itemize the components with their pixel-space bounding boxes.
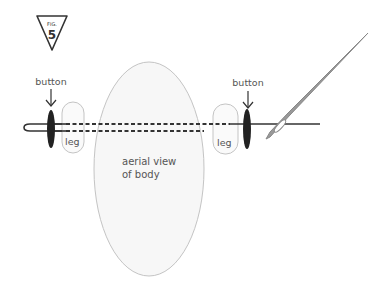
button-right [243,109,251,149]
fig-label: FIG. [47,21,57,27]
button-left [47,110,55,148]
diagram-canvas: FIG. 5 aerial view of body leg leg butto… [0,0,374,292]
arrow-down-icon [243,91,253,108]
body-label-line1: aerial view [122,156,176,167]
arrow-down-icon [46,89,56,106]
button-left-label: button [35,76,66,87]
figure-badge: FIG. 5 [37,16,67,50]
body-label-line2: of body [122,169,160,180]
fig-number: 5 [48,28,56,42]
thread-loop [24,124,62,131]
needle-icon [266,33,368,139]
leg-right-label: leg [217,137,232,148]
leg-left-label: leg [65,136,80,147]
button-right-label: button [232,77,263,88]
